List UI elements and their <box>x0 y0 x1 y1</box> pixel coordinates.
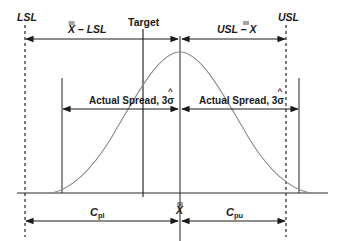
cpu-label: C pu <box>226 206 244 220</box>
svg-text:X – LSL: X – LSL <box>67 23 107 35</box>
actual-spread-left-text: Actual Spread, 3σ ^ <box>89 87 174 106</box>
xbar-center-label: X <box>175 203 184 216</box>
normal-distribution-curve <box>52 52 310 193</box>
target-label: Target <box>128 16 160 28</box>
xbar-minus-lsl-text: X – LSL <box>67 22 107 35</box>
svg-text:Actual Spread, 3σ: Actual Spread, 3σ <box>89 95 174 106</box>
svg-text:pu: pu <box>234 211 244 220</box>
svg-text:USL – X: USL – X <box>217 23 257 35</box>
svg-text:^: ^ <box>278 87 283 96</box>
svg-text:^: ^ <box>168 87 173 96</box>
usl-label: USL <box>278 11 299 23</box>
svg-text:X: X <box>175 204 184 216</box>
lsl-label: LSL <box>17 11 37 23</box>
svg-text:pl: pl <box>98 211 105 220</box>
process-capability-diagram: LSL USL Target X – LSL USL – X Actual Sp… <box>0 0 340 241</box>
actual-spread-right-text: Actual Spread, 3σ ^ <box>199 87 284 106</box>
svg-text:Actual Spread, 3σ: Actual Spread, 3σ <box>199 95 284 106</box>
cpl-label: C pl <box>90 206 105 220</box>
usl-minus-xbar-text: USL – X <box>217 22 257 35</box>
